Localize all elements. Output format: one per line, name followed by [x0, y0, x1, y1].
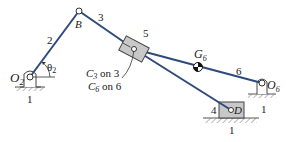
link-3-lower	[134, 49, 231, 110]
label-link-4: 4	[211, 104, 217, 116]
label-link-1-right: 1	[261, 103, 267, 115]
label-d: D	[233, 104, 242, 116]
center-of-gravity-g6-icon	[194, 63, 203, 72]
pin-b	[76, 8, 82, 14]
pin-o2	[27, 74, 33, 80]
label-link-5: 5	[143, 27, 149, 39]
note-c6-on-6: C6 on 6	[88, 80, 122, 94]
label-link-3: 3	[98, 11, 104, 23]
label-link-2: 2	[47, 34, 53, 46]
pin-d	[229, 108, 234, 113]
label-g6: G6	[194, 47, 207, 63]
label-theta-2: θ2	[47, 61, 56, 75]
label-link-1-left: 1	[27, 93, 33, 105]
label-link-1-bottom: 1	[229, 124, 235, 136]
pin-c	[132, 47, 137, 52]
mechanism-diagram: O2 θ2 1 2 B 3 5 G6 6 O6 1 4 D 1 C3 on 3 …	[0, 0, 286, 142]
label-o2: O2	[10, 70, 24, 87]
label-b: B	[75, 18, 82, 30]
note-c3-on-3: C3 on 3	[86, 67, 120, 81]
label-link-6: 6	[236, 65, 242, 77]
pin-o6	[259, 80, 265, 86]
ground-slider-d	[203, 118, 259, 123]
label-o6: O6	[267, 78, 280, 94]
